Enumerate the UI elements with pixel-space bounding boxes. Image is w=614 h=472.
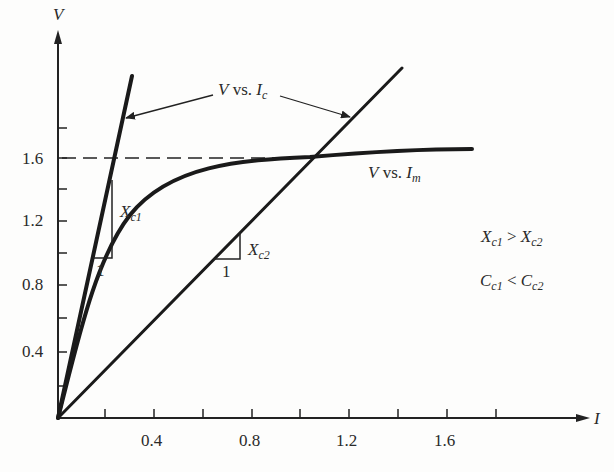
relation-reactance: Xc1 > Xc2 [480, 227, 543, 249]
slope-base-label: 1 [222, 262, 231, 281]
y-axis-arrow-icon [54, 30, 62, 44]
y-axis: V [53, 5, 66, 418]
slope-triangle-xc2: 1 Xc2 [213, 232, 270, 281]
arrow-icon [126, 95, 213, 118]
y-tick-labels: 0.4 0.8 1.2 1.6 [22, 149, 44, 361]
x-tick-label: 0.8 [239, 431, 260, 450]
y-tick-label: 1.2 [22, 211, 43, 230]
x-tick-labels: 0.4 0.8 1.2 1.6 [141, 431, 455, 450]
x-tick-label: 0.4 [141, 431, 163, 450]
x-axis-label: I [593, 409, 601, 428]
y-axis-label: V [53, 5, 66, 24]
vi-characteristic-chart: V I 0.4 0.8 1.2 1.6 0.4 0.8 1. [0, 0, 614, 472]
x-axis-arrow-icon [576, 414, 590, 422]
y-tick-label: 1.6 [22, 149, 43, 168]
v-vs-ic-label: V vs. Ic [218, 80, 268, 102]
relation-capacitance: Cc1 < Cc2 [480, 271, 543, 293]
xc2-label: Xc2 [247, 240, 270, 262]
y-tick-label: 0.4 [22, 342, 44, 361]
v-vs-im-label: V vs. Im [368, 163, 421, 185]
x-ticks [105, 409, 496, 418]
line-v-vs-ic-xc2 [58, 68, 402, 418]
slope-base-label: 1 [96, 261, 105, 280]
x-tick-label: 1.2 [336, 431, 357, 450]
annotation-v-vs-ic: V vs. Ic [126, 80, 350, 118]
curve-v-vs-im [58, 149, 472, 418]
x-tick-label: 1.6 [434, 431, 455, 450]
y-ticks [58, 128, 67, 386]
arrow-icon [280, 96, 350, 117]
y-tick-label: 0.8 [22, 275, 43, 294]
x-axis: I [58, 409, 601, 428]
